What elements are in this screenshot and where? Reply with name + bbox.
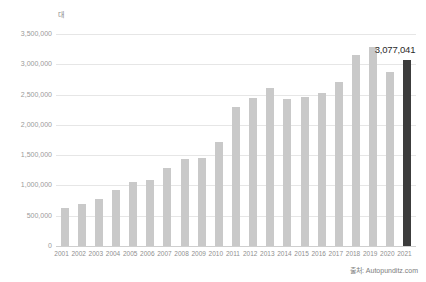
bar-slot bbox=[125, 34, 141, 246]
y-axis-unit-label: 대 bbox=[38, 10, 64, 19]
bar-slot bbox=[108, 34, 124, 246]
y-axis-tick-label: 2,500,000 bbox=[0, 91, 52, 99]
bar-2013[interactable] bbox=[266, 88, 274, 246]
bar-slot bbox=[262, 34, 278, 246]
bar-slot bbox=[245, 34, 261, 246]
bar-slot bbox=[74, 34, 90, 246]
bar-2014[interactable] bbox=[283, 99, 291, 246]
y-axis-tick-label: 500,000 bbox=[0, 212, 52, 220]
bar-2016[interactable] bbox=[318, 93, 326, 246]
bars-container bbox=[56, 34, 416, 246]
bar-2019[interactable] bbox=[369, 47, 377, 246]
y-axis-tick-label: 3,000,000 bbox=[0, 60, 52, 68]
y-axis-tick-label: 1,500,000 bbox=[0, 151, 52, 159]
bar-2020[interactable] bbox=[386, 72, 394, 246]
y-axis-tick-label: 1,000,000 bbox=[0, 181, 52, 189]
y-axis-tick-label: 2,000,000 bbox=[0, 121, 52, 129]
source-note: 출처: Autopunditz.com bbox=[350, 266, 418, 275]
bar-slot bbox=[297, 34, 313, 246]
bar-chart: 대 3,500,0003,000,0002,500,0002,000,0001,… bbox=[0, 0, 426, 282]
bar-slot bbox=[142, 34, 158, 246]
x-axis-tick-labels: 2001200220032004200520062007200820092010… bbox=[56, 249, 416, 261]
bar-2017[interactable] bbox=[335, 82, 343, 246]
bar-2008[interactable] bbox=[181, 159, 189, 246]
bar-slot bbox=[382, 34, 398, 246]
bar-2002[interactable] bbox=[78, 204, 86, 246]
bar-slot bbox=[159, 34, 175, 246]
bar-slot bbox=[194, 34, 210, 246]
bar-2001[interactable] bbox=[61, 208, 69, 246]
bar-slot bbox=[57, 34, 73, 246]
bar-slot bbox=[279, 34, 295, 246]
bar-2012[interactable] bbox=[249, 98, 257, 246]
y-axis-tick-label: 3,500,000 bbox=[0, 30, 52, 38]
bar-slot bbox=[399, 34, 415, 246]
bar-2010[interactable] bbox=[215, 142, 223, 246]
bar-slot bbox=[91, 34, 107, 246]
bar-slot bbox=[177, 34, 193, 246]
x-axis-tick-label-2021: 2021 bbox=[393, 249, 415, 258]
bar-2004[interactable] bbox=[112, 190, 120, 246]
bar-slot bbox=[314, 34, 330, 246]
bar-2018[interactable] bbox=[352, 55, 360, 246]
bar-slot bbox=[228, 34, 244, 246]
bar-slot bbox=[211, 34, 227, 246]
bar-slot bbox=[348, 34, 364, 246]
bar-2003[interactable] bbox=[95, 199, 103, 246]
gridline bbox=[56, 246, 416, 247]
plot-area bbox=[56, 34, 416, 246]
bar-2009[interactable] bbox=[198, 158, 206, 246]
bar-2011[interactable] bbox=[232, 107, 240, 246]
y-axis-tick-label: 0 bbox=[0, 242, 52, 250]
bar-slot bbox=[331, 34, 347, 246]
bar-2007[interactable] bbox=[163, 168, 171, 246]
highlight-data-label: 3,077,041 bbox=[366, 44, 424, 56]
bar-2021[interactable] bbox=[403, 60, 411, 246]
bar-2005[interactable] bbox=[129, 182, 137, 246]
bar-2015[interactable] bbox=[301, 97, 309, 246]
bar-2006[interactable] bbox=[146, 180, 154, 246]
bar-slot bbox=[365, 34, 381, 246]
